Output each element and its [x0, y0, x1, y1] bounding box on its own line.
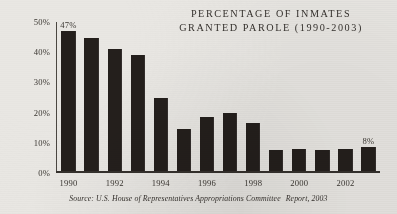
source-suffix: Report, 2003 [286, 194, 328, 203]
y-axis-tick-50: 50% [34, 17, 50, 27]
bar-1997 [223, 113, 237, 171]
bar-1999 [269, 150, 283, 171]
x-slot: 1992 [103, 178, 126, 192]
bar-slot: 8% [357, 22, 380, 171]
y-axis-tick-0: 0% [38, 168, 50, 178]
bar-slot [288, 22, 311, 171]
bar-slot [149, 22, 172, 171]
x-axis-tick-1990: 1990 [60, 178, 78, 192]
bar-2000 [292, 149, 306, 171]
bar-value-label-2003: 8% [363, 136, 375, 146]
bar-slot [126, 22, 149, 171]
bar-value-label-1990: 47% [60, 20, 76, 30]
bar-slot [265, 22, 288, 171]
y-axis-tick-40: 40% [34, 47, 50, 57]
bar-1995 [177, 129, 191, 171]
x-slot [80, 178, 103, 192]
y-axis-tick-30: 30% [34, 77, 50, 87]
bar-1996 [200, 117, 214, 171]
x-slot: 2000 [288, 178, 311, 192]
bar-slot [103, 22, 126, 171]
bar-1990 [61, 31, 75, 171]
plot-area: 0%10%20%30%40%50% 47%8% 1990199219941996… [56, 22, 380, 173]
parole-percentage-bar-chart: PERCENTAGE OF INMATES GRANTED PAROLE (19… [0, 0, 397, 214]
x-slot [172, 178, 195, 192]
bar-1994 [154, 98, 168, 171]
x-axis-tick-2000: 2000 [290, 178, 308, 192]
x-axis-tick-1994: 1994 [152, 178, 170, 192]
bar-slot [172, 22, 195, 171]
chart-title-line-1: PERCENTAGE OF INMATES [150, 7, 392, 21]
y-axis-tick-20: 20% [34, 108, 50, 118]
bar-slot [219, 22, 242, 171]
bar-2001 [315, 150, 329, 171]
x-slot [265, 178, 288, 192]
bar-series: 47%8% [57, 22, 380, 171]
x-slot: 1996 [195, 178, 218, 192]
bar-1992 [108, 49, 122, 171]
bar-2002 [338, 149, 352, 171]
bar-slot [242, 22, 265, 171]
x-axis-tick-1992: 1992 [106, 178, 124, 192]
source-prefix: Source: U.S. House of Representatives Ap… [69, 194, 280, 203]
x-axis-tick-1996: 1996 [198, 178, 216, 192]
bar-1993 [131, 55, 145, 171]
x-slot [357, 178, 380, 192]
x-axis-tick-2002: 2002 [336, 178, 354, 192]
bar-slot [195, 22, 218, 171]
bar-slot [334, 22, 357, 171]
x-slot: 1994 [149, 178, 172, 192]
x-slot: 1998 [242, 178, 265, 192]
bar-1991 [84, 38, 98, 171]
x-slot: 2002 [334, 178, 357, 192]
x-slot [126, 178, 149, 192]
source-citation: Source: U.S. House of Representatives Ap… [0, 194, 397, 203]
x-axis-tick-labels: 1990199219941996199820002002 [57, 178, 380, 192]
bar-1998 [246, 123, 260, 171]
bar-2003 [361, 147, 375, 171]
bar-slot [80, 22, 103, 171]
y-axis-tick-10: 10% [34, 138, 50, 148]
x-slot [219, 178, 242, 192]
x-slot: 1990 [57, 178, 80, 192]
x-axis-tick-1998: 1998 [244, 178, 262, 192]
x-slot [311, 178, 334, 192]
x-axis-line [56, 171, 380, 173]
bar-slot: 47% [57, 22, 80, 171]
bar-slot [311, 22, 334, 171]
